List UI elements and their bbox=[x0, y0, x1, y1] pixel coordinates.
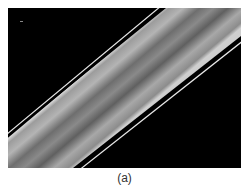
figure-caption: (a) bbox=[0, 170, 249, 186]
fiber-band-graphic bbox=[8, 8, 241, 168]
fiber-image bbox=[8, 8, 241, 168]
